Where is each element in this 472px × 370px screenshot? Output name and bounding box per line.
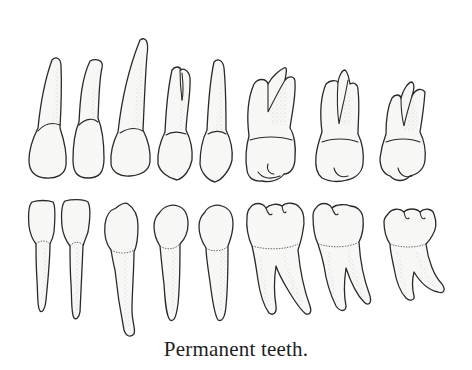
upper-third-molar [380, 82, 425, 181]
lower-lateral-incisor [62, 200, 90, 319]
upper-first-molar [246, 68, 295, 182]
upper-central-incisor [29, 58, 66, 178]
lower-central-incisor [29, 201, 55, 312]
lower-canine [105, 203, 138, 336]
upper-lateral-incisor [73, 60, 104, 178]
upper-first-premolar [158, 67, 192, 180]
lower-row [29, 200, 444, 336]
teeth-illustration [0, 0, 472, 370]
figure-caption: Permanent teeth. [0, 337, 472, 362]
upper-row [29, 39, 425, 182]
lower-third-molar [384, 209, 444, 300]
lower-second-molar [313, 204, 371, 311]
lower-first-premolar [154, 205, 188, 320]
lower-second-premolar [199, 205, 233, 320]
upper-second-premolar [200, 60, 232, 182]
lower-first-molar [247, 203, 311, 314]
upper-canine [111, 39, 150, 176]
upper-second-molar [316, 70, 364, 181]
